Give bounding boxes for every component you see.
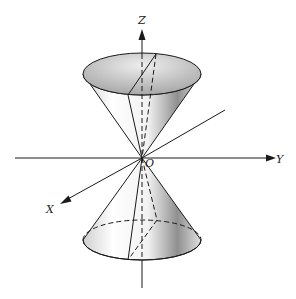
x-axis-arrow-icon [60, 196, 72, 205]
origin-label: O [145, 157, 154, 170]
y-axis-label: Y [276, 153, 285, 166]
x-axis-label: X [45, 203, 55, 216]
z-axis-arrow-icon [139, 29, 146, 40]
z-axis-label: Z [137, 14, 146, 27]
y-axis-arrow-icon [266, 155, 276, 162]
double-cone-diagram: Z Y X O [0, 0, 296, 299]
